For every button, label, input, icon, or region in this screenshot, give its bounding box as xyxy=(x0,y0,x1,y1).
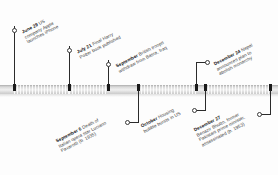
timeline-tick xyxy=(195,84,198,91)
event-caption-sep-basra: September British troops withdraw from B… xyxy=(115,40,168,74)
event-node-dot[interactable] xyxy=(192,108,197,113)
event-elbow xyxy=(196,110,206,111)
event-node-dot[interactable] xyxy=(12,28,17,33)
timeline-tick xyxy=(107,84,110,91)
event-node-dot[interactable] xyxy=(257,112,262,117)
event-node-dot[interactable] xyxy=(67,48,72,53)
event-stem xyxy=(205,90,206,110)
event-stem xyxy=(138,90,139,122)
axis-drop-shadow xyxy=(0,94,278,97)
event-caption-sep-6-pavarotti: September 6 Death of Italian opera star … xyxy=(55,115,110,154)
event-elbow xyxy=(261,114,271,115)
event-node-dot[interactable] xyxy=(106,62,111,67)
event-caption-jun-29-iphone: June 29 US company Apple launches iPhone xyxy=(21,14,60,45)
event-stem xyxy=(270,90,271,114)
event-caption-dec-24-nepal: December 24 Nepal announces plan to abol… xyxy=(213,43,259,77)
timeline-tick xyxy=(68,84,71,91)
event-node-dot[interactable] xyxy=(205,60,210,65)
timeline-tick xyxy=(13,84,16,91)
event-elbow xyxy=(129,122,139,123)
event-caption-dec-27-bhutto: December 27 Benazir Bhutto, former Pakis… xyxy=(193,105,249,148)
event-stem xyxy=(14,26,15,84)
timeline-figure: June 29 US company Apple launches iPhone… xyxy=(0,0,278,175)
event-stem xyxy=(196,62,197,84)
event-caption-jul-21-potter: July 21 Final Harry Potter book publishe… xyxy=(76,29,122,60)
event-caption-oct-housing: October Housing bubble bursts in US xyxy=(140,105,182,134)
event-node-dot[interactable] xyxy=(125,120,130,125)
